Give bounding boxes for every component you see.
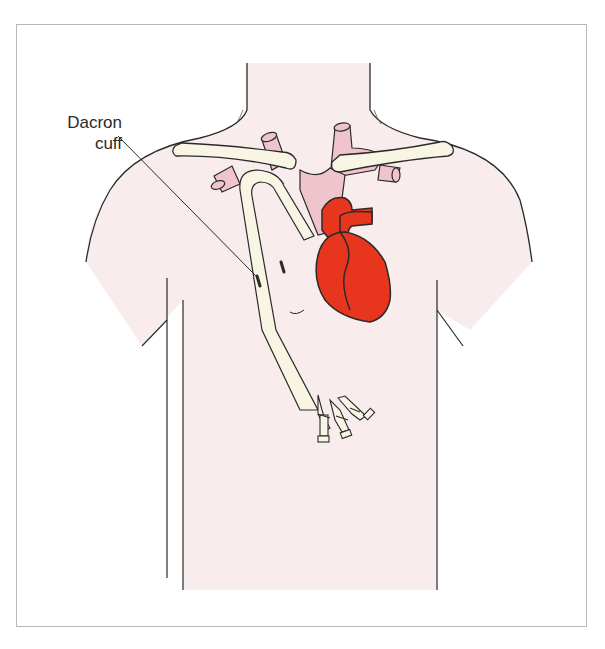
dacron-cuff-label: Dacron cuff — [50, 112, 122, 154]
dacron-cuff-label-line1: Dacron — [50, 112, 122, 133]
dacron-cuff-label-line2: cuff — [50, 133, 122, 154]
chest-diagram — [0, 0, 605, 649]
torso — [86, 63, 532, 590]
